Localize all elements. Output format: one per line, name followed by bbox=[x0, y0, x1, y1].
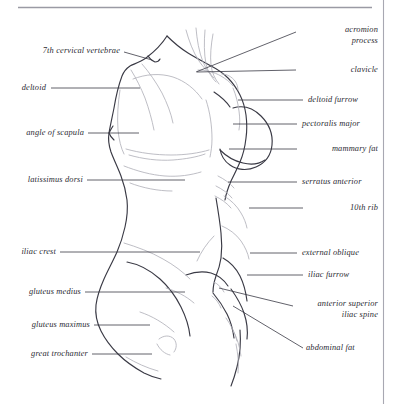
label-acromion-process: acromion process bbox=[302, 25, 378, 46]
label-deltoid-furrow: deltoid furrow bbox=[308, 95, 378, 106]
label-7th-cervical-vertebrae: 7th cervical vertebrae bbox=[16, 46, 120, 57]
label-gluteus-medius: gluteus medius bbox=[12, 287, 81, 298]
scapula-plate-upper bbox=[133, 75, 202, 99]
leader-lines-right bbox=[196, 32, 303, 348]
label-10th-rib: 10th rib bbox=[308, 203, 378, 214]
label-serratus-anterior: serratus anterior bbox=[302, 177, 378, 188]
leader-anterior-superior-iliac-spine bbox=[219, 288, 293, 306]
label-deltoid: deltoid bbox=[16, 83, 46, 94]
leader-lines-left bbox=[51, 52, 200, 354]
label-acromion-process-line1: acromion bbox=[302, 25, 378, 36]
flank-fold bbox=[197, 236, 214, 261]
label-asis-line2: iliac spine bbox=[300, 310, 378, 321]
anterior-torso-contour bbox=[211, 66, 247, 200]
anatomy-figure-page: 7th cervical vertebrae deltoid angle of … bbox=[0, 0, 393, 404]
neck-strand-3 bbox=[204, 30, 216, 82]
label-mammary-fat: mammary fat bbox=[302, 144, 378, 155]
deltoid-shading-1 bbox=[131, 70, 154, 130]
thigh-inner-line bbox=[231, 330, 240, 386]
great-trochanter-dimple-2 bbox=[157, 344, 170, 355]
gluteal-fold-lower bbox=[126, 357, 158, 371]
label-latissimus-dorsi: latissimus dorsi bbox=[12, 175, 83, 186]
latissimus-line-1 bbox=[124, 166, 201, 176]
posterior-contour bbox=[96, 36, 167, 379]
gluteus-maximus-shading bbox=[140, 312, 174, 332]
pectoral-axilla-edge bbox=[214, 92, 230, 107]
iliac-crest-line bbox=[124, 243, 190, 279]
great-trochanter-dimple bbox=[159, 336, 176, 352]
external-oblique-line bbox=[222, 226, 249, 259]
scapula-plate-lower bbox=[126, 149, 209, 155]
label-iliac-crest: iliac crest bbox=[14, 247, 56, 258]
label-gluteus-maximus: gluteus maximus bbox=[12, 320, 90, 331]
body-outline-group bbox=[96, 36, 272, 386]
label-angle-of-scapula: angle of scapula bbox=[12, 128, 84, 139]
abdominal-fat-fold-1 bbox=[226, 318, 237, 341]
tenth-rib-arc bbox=[224, 196, 247, 228]
label-pectoralis-major: pectoralis major bbox=[302, 119, 378, 130]
label-external-oblique: external oblique bbox=[302, 248, 378, 259]
label-asis-line1: anterior superior bbox=[300, 299, 378, 310]
scapula-plate-right bbox=[206, 100, 212, 157]
latissimus-line-2 bbox=[130, 183, 172, 191]
label-great-trochanter: great trochanter bbox=[12, 349, 88, 360]
asis-mark-1 bbox=[214, 282, 224, 292]
label-clavicle: clavicle bbox=[302, 65, 378, 76]
scapula-plate-left bbox=[118, 90, 124, 154]
label-abdominal-fat: abdominal fat bbox=[306, 343, 378, 354]
label-iliac-furrow: iliac furrow bbox=[308, 270, 378, 281]
label-anterior-superior-iliac-spine: anterior superior iliac spine bbox=[300, 299, 378, 320]
buttock-upper-ridge bbox=[186, 272, 228, 286]
leader-abdominal-fat bbox=[233, 306, 303, 348]
label-acromion-process-line2: process bbox=[302, 36, 378, 47]
deltoid-shading-2 bbox=[142, 64, 173, 123]
